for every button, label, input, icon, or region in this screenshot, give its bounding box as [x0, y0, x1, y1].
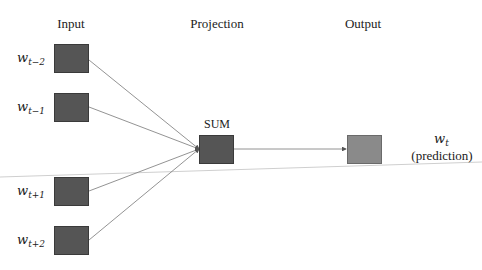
prediction-caption: (prediction) [411, 148, 472, 164]
input-label-t-plus-1: wt+1 [17, 183, 45, 200]
edge-input-2-to-sum [89, 107, 199, 149]
sum-box [199, 135, 234, 164]
input-box-t-minus-1 [54, 93, 89, 122]
input-label-t-minus-2: wt−2 [17, 50, 45, 67]
input-label-t-plus-2: wt+2 [17, 232, 45, 249]
projection-column-label: Projection [190, 16, 243, 32]
input-box-t-plus-2 [54, 226, 89, 255]
input-box-t-minus-2 [54, 44, 89, 73]
stray-scan-line [0, 162, 482, 177]
input-column-label: Input [57, 16, 84, 32]
edge-input-1-to-sum [89, 60, 199, 149]
sum-label: SUM [204, 117, 230, 132]
cbow-diagram: Input Projection Output wt−2 wt−1 wt+1 w… [0, 0, 482, 270]
edge-input-3-to-sum [89, 149, 199, 191]
output-label: wt [434, 131, 449, 148]
output-column-label: Output [345, 16, 381, 32]
input-box-t-plus-1 [54, 177, 89, 206]
input-label-t-minus-1: wt−1 [17, 99, 45, 116]
edge-input-4-to-sum [89, 149, 199, 240]
output-box [347, 135, 382, 164]
